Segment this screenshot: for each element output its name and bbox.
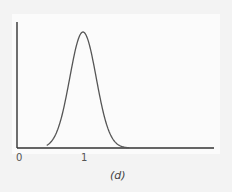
chart-svg: 0 1 (d) <box>0 0 232 192</box>
x-tick-1: 1 <box>81 152 87 163</box>
figure-caption: (d) <box>110 169 126 182</box>
density-curve <box>47 32 130 148</box>
x-tick-0: 0 <box>16 152 22 163</box>
